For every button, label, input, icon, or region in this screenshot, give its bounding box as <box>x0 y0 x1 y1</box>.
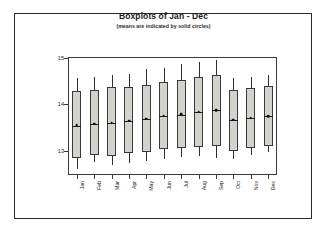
x-tick-mark <box>164 175 165 179</box>
x-tick-label-feb: Feb <box>96 181 102 190</box>
x-tick-label-aug: Aug <box>201 181 207 190</box>
x-tick-mark <box>77 175 78 179</box>
x-tick-mark <box>129 175 130 179</box>
x-tick-mark <box>199 175 200 179</box>
x-tick-label-sep: Sep <box>218 181 224 190</box>
x-tick-label-oct: Oct <box>235 181 241 189</box>
x-tick-mark <box>112 175 113 179</box>
y-tick-label: 14 <box>58 101 68 107</box>
x-tick-mark <box>233 175 234 179</box>
mean-marker <box>267 115 270 118</box>
whisker-lower <box>268 146 269 152</box>
boxplot-dec <box>68 57 277 175</box>
y-tick-label: 15 <box>58 55 68 61</box>
x-tick-mark <box>268 175 269 179</box>
chart-title: Boxplots of Jan - Dec <box>0 11 327 21</box>
x-tick-mark <box>216 175 217 179</box>
x-tick-mark <box>251 175 252 179</box>
x-tick-label-mar: Mar <box>114 181 120 190</box>
x-tick-label-nov: Nov <box>253 181 259 190</box>
x-tick-label-jan: Jan <box>79 181 85 189</box>
x-tick-label-may: May <box>148 181 154 191</box>
plot-area: 151413 JanFebMarAprMayJunJulAugSepOctNov… <box>68 57 277 175</box>
y-tick-label: 13 <box>58 148 68 154</box>
whisker-upper <box>268 75 269 86</box>
x-tick-mark <box>94 175 95 179</box>
x-tick-label-dec: Dec <box>270 181 276 190</box>
x-tick-label-jul: Jul <box>183 181 189 188</box>
chart-subtitle: (means are indicated by solid circles) <box>0 23 327 29</box>
x-tick-label-jun: Jun <box>166 181 172 189</box>
x-tick-mark <box>146 175 147 179</box>
x-tick-label-apr: Apr <box>131 181 137 189</box>
x-tick-mark <box>181 175 182 179</box>
